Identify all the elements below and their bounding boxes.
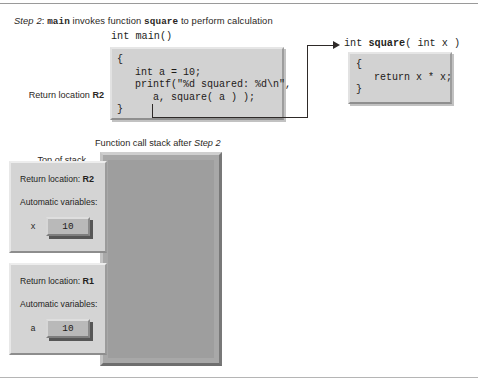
return-location-text: Return location: [29, 90, 93, 100]
figure-caption: Step 2: main invokes function square to …: [14, 15, 273, 27]
call-connector-segment-up: [307, 45, 308, 118]
call-stack-caption-prefix: Function call stack after: [95, 138, 194, 148]
stack-frame-square-variable-name: x: [25, 222, 41, 232]
stack-frame-main: Return location: R1 Automatic variables:…: [9, 263, 107, 355]
stack-frame-main-auto-label: Automatic variables:: [20, 299, 97, 309]
stack-frame-main-return-line: Return location: R1: [20, 276, 94, 286]
stack-frame-square-variable-value: 10: [46, 217, 90, 236]
stack-frame-main-return-value: R1: [83, 276, 95, 286]
stack-frame-square-auto-label: Automatic variables:: [20, 197, 97, 207]
caption-suffix-text: to perform calculation: [178, 15, 273, 26]
top-divider-rule: [0, 3, 478, 4]
call-connector-arrowhead-icon: [333, 41, 340, 49]
main-code-text: { int a = 10; printf("%d squared: %d\n",…: [112, 49, 282, 117]
square-signature-prefix: int: [344, 38, 368, 49]
square-signature-name: square: [368, 38, 405, 49]
caption-square-token: square: [144, 16, 178, 27]
stack-frame-main-variable-name: a: [25, 324, 41, 334]
stack-frame-square-return-line: Return location: R2: [20, 174, 94, 184]
call-connector-segment-down: [152, 104, 153, 118]
stack-frame-main-variable-value: 10: [46, 319, 90, 338]
call-stack-container: [100, 152, 222, 366]
figure-canvas: Step 2: main invokes function square to …: [0, 0, 478, 383]
stack-frame-square-return-label: Return location:: [20, 174, 83, 184]
call-stack-inner-well: [108, 160, 214, 358]
bottom-divider-rule: [0, 377, 478, 378]
call-connector-segment-to-arrow: [307, 45, 335, 46]
caption-step-label: Step 2: [14, 15, 42, 26]
return-location-value: R2: [92, 90, 104, 100]
caption-middle-text: invokes function: [70, 15, 144, 26]
main-signature: int main(): [111, 31, 172, 42]
square-signature-suffix: ( int x ): [405, 38, 460, 49]
main-code-box: { int a = 10; printf("%d squared: %d\n",…: [110, 47, 284, 120]
call-stack-caption-step: Step 2: [194, 138, 221, 148]
stack-frame-main-return-label: Return location:: [20, 276, 83, 286]
stack-frame-square-variable-row: x 10: [25, 217, 90, 236]
caption-main-token: main: [47, 16, 70, 27]
stack-frame-square: Return location: R2 Automatic variables:…: [9, 161, 107, 253]
call-stack-caption: Function call stack after Step 2: [95, 138, 221, 148]
stack-frame-main-variable-row: a 10: [25, 319, 90, 338]
square-code-text: { return x * x; }: [350, 54, 450, 97]
square-signature: int square( int x ): [344, 38, 460, 49]
stack-frame-square-return-value: R2: [83, 174, 95, 184]
square-code-box: { return x * x; }: [348, 52, 452, 104]
call-connector-segment-right: [152, 117, 308, 118]
return-location-label: Return location R2: [8, 90, 104, 102]
